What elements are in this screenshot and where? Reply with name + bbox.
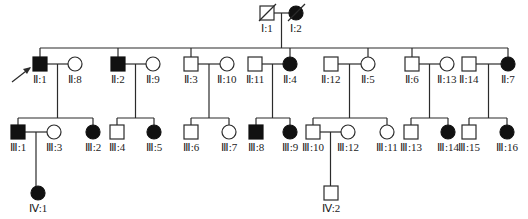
individual-label: Ⅱ:14 — [459, 73, 479, 85]
individual-iii-15: Ⅲ:15 — [458, 125, 481, 153]
individuals: Ⅰ:1Ⅰ:2Ⅱ:1Ⅱ:8Ⅱ:2Ⅱ:9Ⅱ:3Ⅱ:10Ⅱ:11Ⅱ:4Ⅱ:12Ⅱ:5Ⅱ… — [10, 4, 519, 214]
unaffected-male-square — [404, 125, 418, 139]
unaffected-female-circle — [440, 57, 454, 71]
affected-female-circle — [31, 186, 45, 200]
individual-iii-7: Ⅲ:7 — [221, 125, 238, 153]
individual-ii-7: Ⅱ:7 — [501, 57, 515, 85]
affected-female-circle — [86, 125, 100, 139]
unaffected-female-circle — [220, 57, 234, 71]
individual-label: Ⅲ:11 — [376, 141, 398, 153]
individual-iv-1: Ⅳ:1 — [29, 186, 48, 214]
individual-label: Ⅱ:9 — [146, 73, 160, 85]
unaffected-male-square — [462, 125, 476, 139]
individual-iii-11: Ⅲ:11 — [376, 125, 398, 153]
individual-iii-4: Ⅲ:4 — [109, 125, 126, 153]
individual-label: Ⅰ:1 — [261, 22, 273, 34]
individual-ii-2: Ⅱ:2 — [111, 57, 125, 85]
individual-label: Ⅲ:15 — [458, 141, 481, 153]
individual-ii-1: Ⅱ:1 — [12, 57, 47, 85]
individual-label: Ⅲ:9 — [282, 141, 299, 153]
individual-iii-6: Ⅲ:6 — [183, 125, 200, 153]
affected-male-square — [111, 57, 125, 71]
individual-label: Ⅱ:11 — [246, 73, 265, 85]
individual-iii-13: Ⅲ:13 — [400, 125, 423, 153]
individual-ii-9: Ⅱ:9 — [146, 57, 160, 85]
individual-iii-9: Ⅲ:9 — [282, 125, 299, 153]
unaffected-male-square — [110, 125, 124, 139]
individual-label: Ⅱ:4 — [283, 73, 297, 85]
individual-label: Ⅰ:2 — [290, 22, 302, 34]
individual-label: Ⅱ:3 — [184, 73, 198, 85]
affected-female-circle — [147, 125, 161, 139]
individual-label: Ⅱ:8 — [68, 73, 82, 85]
unaffected-female-circle — [47, 125, 61, 139]
connector-lines — [18, 13, 508, 186]
individual-iii-1: Ⅲ:1 — [10, 125, 27, 153]
individual-label: Ⅲ:1 — [10, 141, 27, 153]
individual-label: Ⅲ:14 — [437, 141, 460, 153]
individual-label: Ⅱ:1 — [33, 73, 47, 85]
affected-female-circle — [441, 125, 455, 139]
unaffected-male-square — [184, 125, 198, 139]
individual-ii-12: Ⅱ:12 — [321, 57, 340, 85]
individual-iii-5: Ⅲ:5 — [146, 125, 163, 153]
individual-ii-14: Ⅱ:14 — [459, 57, 479, 85]
individual-label: Ⅲ:16 — [496, 141, 519, 153]
individual-ii-11: Ⅱ:11 — [246, 57, 265, 85]
unaffected-male-square — [324, 57, 338, 71]
individual-label: Ⅲ:4 — [109, 141, 126, 153]
unaffected-female-circle — [146, 57, 160, 71]
individual-ii-5: Ⅱ:5 — [361, 57, 375, 85]
individual-ii-4: Ⅱ:4 — [283, 57, 297, 85]
individual-ii-8: Ⅱ:8 — [68, 57, 82, 85]
individual-label: Ⅲ:3 — [46, 141, 63, 153]
individual-iii-14: Ⅲ:14 — [437, 125, 460, 153]
individual-iii-16: Ⅲ:16 — [496, 125, 519, 153]
unaffected-female-circle — [380, 125, 394, 139]
individual-i-1: Ⅰ:1 — [259, 4, 276, 34]
unaffected-male-square — [248, 57, 262, 71]
unaffected-female-circle — [68, 57, 82, 71]
individual-label: Ⅲ:12 — [337, 141, 359, 153]
affected-female-circle — [500, 125, 514, 139]
individual-label: Ⅳ:1 — [29, 202, 48, 214]
individual-label: Ⅲ:6 — [183, 141, 200, 153]
individual-iii-3: Ⅲ:3 — [46, 125, 63, 153]
individual-ii-3: Ⅱ:3 — [184, 57, 198, 85]
individual-iv-2: Ⅳ:2 — [322, 186, 341, 214]
individual-label: Ⅱ:7 — [501, 73, 515, 85]
individual-ii-10: Ⅱ:10 — [217, 57, 237, 85]
individual-label: Ⅱ:5 — [361, 73, 375, 85]
affected-female-circle — [283, 125, 297, 139]
affected-female-circle — [283, 57, 297, 71]
unaffected-male-square — [306, 125, 320, 139]
individual-label: Ⅲ:10 — [302, 141, 325, 153]
individual-label: Ⅲ:2 — [85, 141, 102, 153]
individual-label: Ⅱ:13 — [437, 73, 457, 85]
affected-male-square — [249, 125, 263, 139]
pedigree-diagram: Ⅰ:1Ⅰ:2Ⅱ:1Ⅱ:8Ⅱ:2Ⅱ:9Ⅱ:3Ⅱ:10Ⅱ:11Ⅱ:4Ⅱ:12Ⅱ:5Ⅱ… — [0, 0, 528, 219]
unaffected-female-circle — [222, 125, 236, 139]
individual-ii-6: Ⅱ:6 — [405, 57, 419, 85]
individual-label: Ⅲ:5 — [146, 141, 163, 153]
unaffected-male-square — [324, 186, 338, 200]
individual-label: Ⅱ:2 — [111, 73, 125, 85]
individual-label: Ⅱ:6 — [405, 73, 419, 85]
individual-iii-10: Ⅲ:10 — [302, 125, 325, 153]
affected-male-square — [11, 125, 25, 139]
individual-label: Ⅲ:7 — [221, 141, 238, 153]
individual-label: Ⅱ:12 — [321, 73, 340, 85]
unaffected-female-circle — [361, 57, 375, 71]
affected-male-square — [33, 57, 47, 71]
individual-ii-13: Ⅱ:13 — [437, 57, 457, 85]
individual-iii-2: Ⅲ:2 — [85, 125, 102, 153]
unaffected-male-square — [405, 57, 419, 71]
individual-iii-12: Ⅲ:12 — [337, 125, 359, 153]
unaffected-female-circle — [341, 125, 355, 139]
unaffected-male-square — [184, 57, 198, 71]
unaffected-male-square — [462, 57, 476, 71]
individual-label: Ⅳ:2 — [322, 202, 341, 214]
affected-female-circle — [501, 57, 515, 71]
individual-iii-8: Ⅲ:8 — [248, 125, 265, 153]
individual-label: Ⅲ:13 — [400, 141, 423, 153]
